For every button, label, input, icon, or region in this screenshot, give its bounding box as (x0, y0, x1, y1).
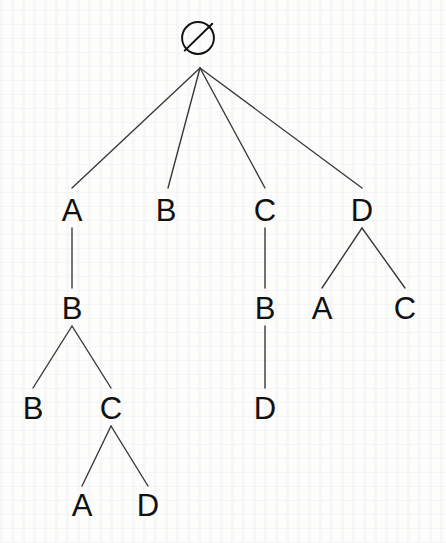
tree-node-label-c: C (394, 293, 416, 324)
tree-edge (200, 68, 265, 188)
empty-set-icon (180, 20, 217, 57)
tree-node-label-a: A (62, 195, 83, 226)
tree-edge (111, 426, 148, 486)
tree-node-label-c: C (100, 393, 122, 424)
tree-node-root (180, 20, 217, 57)
tree-node-label-d: D (351, 195, 373, 226)
edge-group (33, 68, 405, 486)
tree-node-label-a: A (312, 293, 333, 324)
tree-node-label-d: D (137, 490, 159, 521)
tree-node-label-b: B (156, 195, 177, 226)
tree-edge (33, 326, 72, 388)
tree-diagram-canvas: ABCDBBACBCDAD (0, 0, 446, 543)
tree-edge (200, 68, 362, 188)
tree-node-label-b: B (62, 293, 83, 324)
tree-node-label-b: B (255, 293, 276, 324)
tree-edge (72, 68, 200, 188)
tree-edge (168, 68, 200, 188)
tree-node-label-a: A (72, 490, 93, 521)
tree-edge (82, 426, 111, 486)
tree-edge (322, 228, 362, 288)
tree-node-label-c: C (254, 195, 276, 226)
tree-edge (362, 228, 405, 288)
tree-node-label-b: B (23, 393, 44, 424)
empty-set-slash (185, 24, 213, 51)
tree-edge (72, 326, 111, 388)
tree-node-label-d: D (254, 393, 276, 424)
tree-edges-layer (0, 0, 446, 543)
